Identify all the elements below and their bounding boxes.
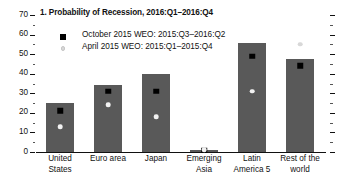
x-axis-labels: United StatesEuro areaJapanEmerging Asia… [36, 154, 324, 190]
right-tick-mark-40 [330, 74, 335, 75]
black-square-marker-icon [60, 34, 66, 40]
y-tick-mark [30, 74, 35, 75]
y-tick-label: 70 [19, 10, 28, 19]
white-dot-marker-icon [61, 46, 66, 51]
y-minor-tick-mark [33, 123, 36, 124]
y-minor-tick-65 [0, 25, 36, 26]
y-tick-label: 20 [19, 107, 28, 116]
y-minor-tick-mark [33, 44, 36, 45]
y-tick-30: 30 [0, 93, 36, 94]
x-label: Japan [132, 154, 180, 165]
y-tick-label: 0 [23, 147, 28, 156]
right-tick-mark-50 [330, 54, 335, 55]
y-tick-label: 60 [19, 29, 28, 38]
y-tick-mark [30, 93, 35, 94]
y-minor-tick-mark [33, 64, 36, 65]
right-axis-ticks [330, 0, 342, 190]
y-minor-tick-15 [0, 123, 36, 124]
right-minor-tick-mark [330, 142, 333, 143]
legend-label-april: April 2015 WEO: 2015:Q1–2015:Q4 [82, 42, 213, 51]
y-tick-label: 30 [19, 88, 28, 97]
y-tick-label: 40 [19, 68, 28, 77]
y-tick-50: 50 [0, 54, 36, 55]
right-minor-tick-mark [330, 64, 333, 65]
october-marker-icon [249, 53, 255, 59]
right-minor-tick-mark [330, 84, 333, 85]
october-marker-icon [297, 63, 303, 69]
bar-group [276, 15, 324, 152]
y-tick-60: 60 [0, 35, 36, 36]
y-tick-10: 10 [0, 132, 36, 133]
right-minor-tick-mark [330, 123, 333, 124]
legend-label-october: October 2015 WEO: 2015:Q3–2016:Q2 [82, 30, 225, 39]
october-marker-icon [57, 108, 63, 114]
bar [142, 74, 170, 152]
y-tick-mark [30, 132, 35, 133]
y-tick-label: 10 [19, 127, 28, 136]
april-marker-icon [154, 114, 159, 119]
chart-figure: 1. Probability of Recession, 2016:Q1–201… [0, 0, 345, 190]
y-minor-tick-5 [0, 142, 36, 143]
right-tick-mark-70 [330, 15, 335, 16]
right-tick-mark-10 [330, 132, 335, 133]
x-label: Euro area [84, 154, 132, 165]
right-tick-mark-0 [330, 152, 335, 153]
y-tick-20: 20 [0, 113, 36, 114]
y-tick-0: 0 [0, 152, 36, 153]
y-tick-40: 40 [0, 74, 36, 75]
april-marker-icon [58, 124, 63, 129]
y-tick-70: 70 [0, 15, 36, 16]
bar [94, 85, 122, 152]
y-tick-mark [30, 35, 35, 36]
right-minor-tick-mark [330, 25, 333, 26]
y-tick-mark [30, 152, 35, 153]
x-label: Rest of the world [276, 154, 324, 175]
y-axis: 010203040506070 [0, 0, 36, 190]
april-marker-icon [202, 148, 207, 153]
x-label: United States [36, 154, 84, 175]
y-minor-tick-mark [33, 103, 36, 104]
x-label: Latin America 5 [228, 154, 276, 175]
y-minor-tick-mark [33, 25, 36, 26]
y-tick-mark [30, 15, 35, 16]
y-minor-tick-25 [0, 103, 36, 104]
bar-group [228, 15, 276, 152]
right-minor-tick-mark [330, 103, 333, 104]
right-tick-mark-60 [330, 35, 335, 36]
october-marker-icon [105, 89, 111, 95]
y-tick-mark [30, 54, 35, 55]
y-minor-tick-mark [33, 142, 36, 143]
right-minor-tick-mark [330, 44, 333, 45]
bar [286, 59, 314, 152]
y-minor-tick-mark [33, 84, 36, 85]
april-marker-icon [298, 42, 303, 47]
y-minor-tick-35 [0, 84, 36, 85]
y-minor-tick-45 [0, 64, 36, 65]
april-marker-icon [106, 103, 111, 108]
right-tick-mark-20 [330, 113, 335, 114]
april-marker-icon [250, 89, 255, 94]
bar [238, 43, 266, 152]
x-label: Emerging Asia [180, 154, 228, 175]
y-tick-label: 50 [19, 49, 28, 58]
october-marker-icon [153, 89, 159, 95]
y-tick-mark [30, 113, 35, 114]
right-tick-mark-30 [330, 93, 335, 94]
y-minor-tick-55 [0, 44, 36, 45]
